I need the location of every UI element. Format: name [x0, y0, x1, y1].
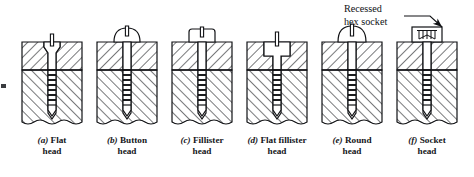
caption-f-line1: Socket	[420, 135, 446, 145]
recessed-hex-socket-annotation: Recessed hex socket	[344, 3, 387, 28]
caption-a: (a) Flat head	[12, 135, 92, 157]
caption-b-index: (b)	[107, 135, 118, 145]
caption-b-line1: Button	[120, 135, 147, 145]
figure-c-fillister-head	[172, 27, 232, 124]
caption-c-index: (c)	[180, 135, 190, 145]
caption-f: (f) Socket head	[387, 135, 467, 157]
left-edge-artifact	[1, 84, 6, 88]
caption-b-line2: head	[87, 146, 167, 157]
caption-e: (e) Round head	[312, 135, 392, 157]
caption-d-index: (d)	[247, 135, 258, 145]
annotation-line-2: hex socket	[344, 16, 387, 27]
screw-figures-group	[1, 16, 457, 124]
caption-e-index: (e)	[332, 135, 342, 145]
figure-f-socket-head	[397, 27, 457, 124]
caption-b: (b) Button head	[87, 135, 167, 157]
caption-d-line1: Flat fillister	[260, 135, 306, 145]
figure-b-button-head	[97, 26, 157, 124]
annotation-line-1: Recessed	[344, 3, 382, 14]
caption-e-line1: Round	[345, 135, 372, 145]
caption-d-line2: head	[232, 146, 322, 157]
caption-f-line2: head	[387, 146, 467, 157]
caption-f-index: (f)	[408, 135, 417, 145]
caption-c: (c) Fillister head	[162, 135, 242, 157]
caption-d: (d) Flat fillister head	[232, 135, 322, 157]
caption-a-line2: head	[12, 146, 92, 157]
figure-e-round-head	[322, 24, 382, 124]
cap-screw-head-styles-figure: Recessed hex socket (a) Flat head (b) Bu…	[0, 0, 474, 177]
caption-c-line2: head	[162, 146, 242, 157]
figure-a-flat-head	[22, 34, 82, 124]
caption-e-line2: head	[312, 146, 392, 157]
caption-a-index: (a)	[38, 135, 49, 145]
caption-a-line1: Flat	[51, 135, 67, 145]
figure-d-flat-fillister-head	[247, 32, 307, 124]
caption-c-line1: Fillister	[193, 135, 224, 145]
